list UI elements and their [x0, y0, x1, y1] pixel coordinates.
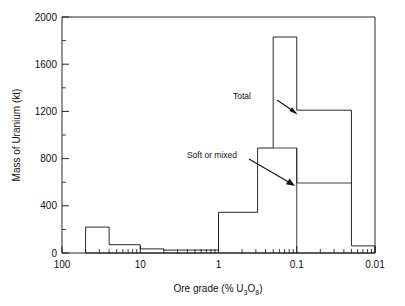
x-tick-label-10: 10: [135, 259, 147, 270]
x-tick-label-0.1: 0.1: [290, 259, 304, 270]
y-axis-minor-ticks: [62, 41, 66, 230]
annotation-soft-arrow-line: [249, 159, 292, 184]
y-tick-label-400: 400: [40, 200, 57, 211]
y-tick-label-1200: 1200: [35, 106, 58, 117]
x-axis-title: Ore grade (% U3O8): [174, 283, 263, 296]
x-axis-title-prefix: Ore grade (% U: [174, 283, 244, 294]
y-tick-label-2000: 2000: [35, 12, 58, 23]
x-axis-tick-labels: 100 10 1 0.1 0.01: [54, 259, 386, 270]
x-axis-title-suffix: ): [259, 283, 262, 294]
y-axis-tick-labels: 0 400 800 1200 1600 2000: [35, 12, 58, 259]
series-total-step: [86, 37, 375, 253]
uranium-ore-grade-histogram: 0 400 800 1200 1600 2000 Mass of Uranium…: [0, 0, 405, 306]
y-axis-title: Mass of Uranium (kt): [11, 89, 22, 182]
annotation-soft-or-mixed-label: Soft or mixed: [187, 150, 237, 160]
annotation-soft-or-mixed: Soft or mixed: [187, 150, 295, 186]
chart-figure: 0 400 800 1200 1600 2000 Mass of Uranium…: [0, 0, 405, 306]
y-tick-label-800: 800: [40, 153, 57, 164]
annotation-soft-arrowhead: [286, 179, 295, 187]
x-tick-label-1: 1: [216, 259, 222, 270]
x-tick-label-0.01: 0.01: [365, 259, 385, 270]
y-tick-label-1600: 1600: [35, 59, 58, 70]
series-soft-or-mixed-step: [273, 148, 351, 253]
y-tick-label-0: 0: [51, 248, 57, 259]
x-axis-minor-ticks: [86, 249, 372, 253]
x-tick-label-100: 100: [54, 259, 71, 270]
annotation-total-label: Total: [233, 91, 251, 101]
annotation-total: Total: [233, 91, 297, 115]
